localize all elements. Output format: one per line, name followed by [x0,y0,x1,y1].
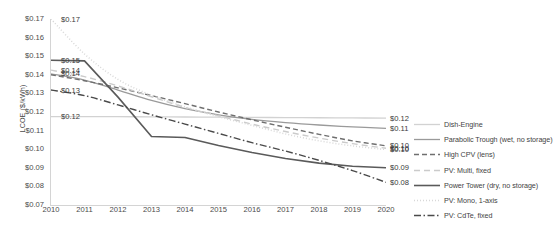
legend-item-label: Parabolic Trough (wet, no storage) [444,135,553,144]
legend-line-swatch-icon [414,150,440,159]
series-start-label: $0.13 [61,86,80,95]
series-line [51,90,386,182]
plot-area [51,19,386,205]
y-axis-tick: $0.15 [8,51,44,60]
series-lines [51,19,386,205]
legend-item[interactable]: Power Tower (dry, no storage) [414,178,553,193]
legend-item[interactable]: Dish-Engine [414,117,553,132]
series-end-label: $0.09 [390,163,409,172]
series-end-label: $0.08 [390,178,409,187]
y-axis-tick: $0.08 [8,181,44,190]
legend-item-label: Dish-Engine [444,120,483,129]
legend-item[interactable]: PV: Mono, 1-axis [414,193,553,208]
x-axis-tick: 2020 [366,205,406,214]
legend-item[interactable]: High CPV (lens) [414,147,553,162]
y-axis-tick: $0.09 [8,163,44,172]
lcoe-line-chart: LCOE ($/kWh) $0.17$0.16$0.15$0.14$0.13$0… [0,0,553,243]
legend-item-label: High CPV (lens) [444,150,495,159]
y-axis-tick: $0.11 [8,126,44,135]
legend-line-swatch-icon [414,211,440,220]
y-axis-tick: $0.17 [8,14,44,23]
series-line [51,70,386,148]
series-line [51,74,386,129]
chart-legend: Dish-EngineParabolic Trough (wet, no sto… [414,117,553,223]
legend-line-swatch-icon [414,196,440,205]
y-axis-tick: $0.16 [8,33,44,42]
legend-line-swatch-icon [414,181,440,190]
y-axis-tick: $0.14 [8,70,44,79]
series-start-label: $0.14 [61,66,80,75]
series-line [51,60,386,168]
series-start-label: $0.15 [61,56,80,65]
legend-item[interactable]: PV: Multi, fixed [414,163,553,178]
legend-item[interactable]: Parabolic Trough (wet, no storage) [414,132,553,147]
y-axis-tick: $0.12 [8,107,44,116]
series-end-label: $0.12 [390,114,409,123]
series-start-label: $0.17 [61,15,80,24]
legend-line-swatch-icon [414,166,440,175]
series-end-label: $0.11 [390,124,408,133]
legend-line-swatch-icon [414,135,440,144]
legend-item-label: PV: Multi, fixed [444,166,491,175]
y-axis-tick: $0.13 [8,88,44,97]
legend-item-label: PV: CdTe, fixed [444,211,493,220]
x-axis-tick-labels: 2010201120122013201420152016201720182019… [51,205,386,219]
legend-item-label: Power Tower (dry, no storage) [444,181,538,190]
series-start-label: $0.12 [61,112,80,121]
legend-item[interactable]: PV: CdTe, fixed [414,208,553,223]
y-axis-tick: $0.10 [8,144,44,153]
series-end-label: $0.10 [390,145,409,154]
legend-item-label: PV: Mono, 1-axis [444,196,498,205]
legend-line-swatch-icon [414,120,440,129]
